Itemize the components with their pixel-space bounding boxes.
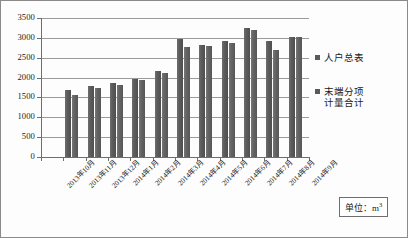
bar[interactable] [139,80,145,157]
x-axis-labels: 2013年10月2013年11月2013年12月2014年1月2014年2月20… [41,159,321,215]
bar-group[interactable] [264,18,286,157]
legend-swatch-icon [315,89,320,94]
bar[interactable] [184,47,190,157]
y-axis-tick-label: 1500 [17,92,35,101]
bar-group[interactable] [153,18,175,157]
bar-group[interactable] [130,18,152,157]
plot-area [41,18,309,157]
bars-layer [41,18,309,157]
bar[interactable] [206,46,212,157]
bar-group[interactable] [41,18,63,157]
y-axis-tick-label: 0 [31,152,35,161]
y-axis-tick-label: 2500 [17,53,35,62]
bar-group[interactable] [242,18,264,157]
bar[interactable] [222,41,228,157]
legend-item-total-meter[interactable]: 人户总表 [315,53,407,65]
bar[interactable] [177,39,183,157]
bar-group[interactable] [63,18,85,157]
legend-label: 人户总表 [315,53,407,65]
bar-chart-container: 3500300025002000150010005000 2013年10月201… [0,0,408,238]
bar-group[interactable] [220,18,242,157]
y-axis-tick-label: 3000 [17,33,35,42]
bar[interactable] [162,73,168,157]
legend-item-submeter-sum[interactable]: 末端分项 计量合计 [315,87,407,110]
unit-annotation: 单位：m3 [339,197,388,217]
bar[interactable] [296,37,302,157]
legend-swatch-icon [315,55,320,60]
bar-group[interactable] [197,18,219,157]
bar[interactable] [266,41,272,157]
bar[interactable] [117,85,123,157]
bar[interactable] [251,30,257,157]
y-axis-tick-label: 3500 [17,13,35,22]
bar[interactable] [273,50,279,157]
bar[interactable] [132,79,138,157]
unit-label: 单位：m [345,203,379,213]
y-axis-tick-label: 2000 [17,73,35,82]
bar[interactable] [88,86,94,157]
bar[interactable] [155,71,161,157]
y-axis-tick-label: 1000 [17,112,35,121]
bar[interactable] [72,95,78,157]
bar[interactable] [95,88,101,157]
bar[interactable] [289,37,295,157]
bar[interactable] [110,83,116,157]
bar[interactable] [65,90,71,157]
legend-label: 末端分项 计量合计 [315,87,407,110]
chart-legend: 人户总表 末端分项 计量合计 [315,53,407,132]
bar[interactable] [244,28,250,157]
bar-group[interactable] [86,18,108,157]
bar[interactable] [199,45,205,157]
y-axis-labels: 3500300025002000150010005000 [1,1,39,176]
y-axis-tick-label: 500 [22,132,35,141]
bar-group[interactable] [287,18,309,157]
bar-group[interactable] [108,18,130,157]
unit-exponent: 3 [379,201,382,208]
bar[interactable] [229,43,235,157]
bar-group[interactable] [175,18,197,157]
